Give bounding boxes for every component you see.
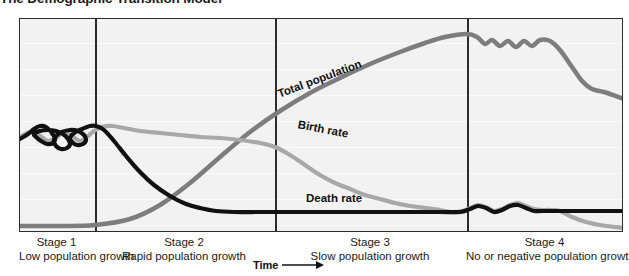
stage-1-name: Stage 1 — [19, 236, 94, 250]
stage-caption-4: Stage 4 No or negative population growth — [466, 236, 623, 263]
stage-2-name: Stage 2 — [94, 236, 274, 250]
stage-1-description: Low population growth — [19, 250, 94, 264]
stage-4-description: No or negative population growth — [466, 250, 623, 264]
stage-4-name: Stage 4 — [466, 236, 623, 250]
demographic-transition-diagram: The Demographic Transition Model Total p… — [0, 0, 629, 276]
right-arrow-icon — [282, 260, 324, 270]
time-axis-text: Time — [253, 259, 278, 271]
death-rate-label: Death rate — [306, 192, 362, 204]
stage-2-description: Rapid population growth — [94, 250, 274, 264]
stage-caption-1: Stage 1 Low population growth — [19, 236, 94, 263]
time-axis-label: Time — [253, 259, 324, 271]
page-title: The Demographic Transition Model — [0, 0, 629, 11]
stage-3-name: Stage 3 — [274, 236, 466, 250]
stage-caption-2: Stage 2 Rapid population growth — [94, 236, 274, 263]
